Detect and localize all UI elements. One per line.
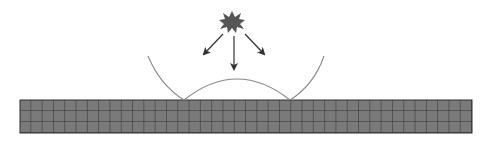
ray-arrows — [204, 34, 264, 69]
starburst-source-icon — [219, 11, 245, 33]
outer-wavefront-arc — [148, 56, 324, 100]
gridded-slab — [20, 100, 472, 133]
arrow-icon — [204, 34, 223, 54]
inner-wavefront-arc — [184, 79, 290, 100]
arrow-icon — [245, 34, 264, 54]
diagram-canvas: Point source emitting rays toward a grid… — [0, 0, 491, 142]
